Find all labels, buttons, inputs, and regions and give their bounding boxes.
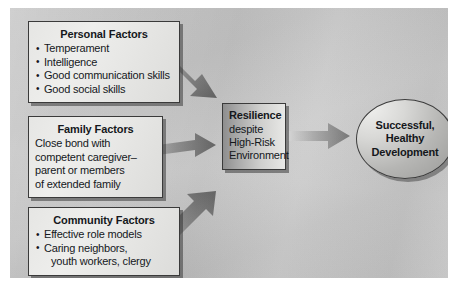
family-factors-title: Family Factors [35,122,156,136]
list-item: Caring neighbors, [35,242,173,256]
text-line: High-Risk [229,136,281,149]
list-item: Temperament [35,42,173,56]
text-line: Successful, [372,119,439,133]
text-line: parent or members [35,164,156,178]
figure-root: Personal Factors Temperament Intelligenc… [0,0,458,295]
resilience-title: Resilience [229,109,281,123]
diagram-canvas: Personal Factors Temperament Intelligenc… [10,8,448,278]
text-line: Environment [229,149,281,162]
text-line: of extended family [35,178,156,192]
text-line: Healthy [372,132,439,146]
list-item: Intelligence [35,56,173,70]
node-personal-factors: Personal Factors Temperament Intelligenc… [28,21,180,103]
list-item: Effective role models [35,228,173,242]
node-successful-healthy-development: Successful, Healthy Development [356,99,448,179]
family-factors-text: Close bond with competent caregiver– par… [35,137,156,191]
text-line: competent caregiver– [35,151,156,165]
community-factors-title: Community Factors [35,213,173,227]
node-resilience: Resilience despite High-Risk Environment [222,103,286,170]
list-item: Good communication skills [35,69,173,83]
personal-factors-list: Temperament Intelligence Good communicat… [35,42,173,96]
outcome-text: Successful, Healthy Development [372,119,439,160]
arrow-resilience-to-outcome [288,123,350,149]
text-line: despite [229,123,281,136]
node-family-factors: Family Factors Close bond with competent… [28,116,163,198]
list-item: Good social skills [35,83,173,97]
community-factors-list: Effective role models Caring neighbors, … [35,228,173,269]
list-item: youth workers, clergy [35,255,173,269]
text-line: Close bond with [35,137,156,151]
node-community-factors: Community Factors Effective role models … [28,207,180,276]
personal-factors-title: Personal Factors [35,27,173,41]
text-line: Development [372,146,439,160]
